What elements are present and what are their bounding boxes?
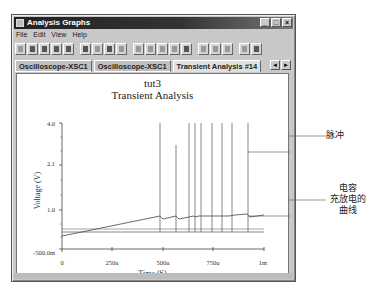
export-mathcad-icon[interactable] (251, 43, 262, 55)
annotation-capacitor-line1: 电容 (322, 183, 374, 194)
zoom-icon[interactable] (169, 43, 180, 55)
annotation-pulse: 脉冲 (326, 130, 344, 141)
analysis-graphs-window: Analysis Graphs _ □ × File Edit View Hel… (11, 14, 296, 282)
toolbar (15, 42, 292, 56)
select-trace-icon[interactable] (198, 43, 209, 55)
copy-icon[interactable] (92, 43, 103, 55)
tab-strip: Oscilloscope-XSC1 Oscilloscope-XSC1 Tran… (15, 60, 292, 72)
menu-help[interactable]: Help (72, 30, 86, 40)
undo-icon[interactable] (116, 43, 127, 55)
title-bar[interactable]: Analysis Graphs _ □ × (14, 17, 293, 29)
app-icon (16, 19, 24, 27)
cut-icon[interactable] (80, 43, 91, 55)
export-excel-icon[interactable] (239, 43, 250, 55)
menu-edit[interactable]: Edit (33, 30, 45, 40)
paste-icon[interactable] (104, 43, 115, 55)
tab-transient-analysis[interactable]: Transient Analysis #14 (173, 60, 262, 72)
menu-view[interactable]: View (51, 30, 66, 40)
legend-icon[interactable] (145, 43, 156, 55)
open-icon[interactable] (27, 43, 38, 55)
grid-icon[interactable] (133, 43, 144, 55)
close-button[interactable]: × (282, 18, 292, 27)
print-preview-icon[interactable] (63, 43, 74, 55)
annotation-capacitor-line3: 曲线 (322, 205, 374, 216)
menu-bar: File Edit View Help (16, 30, 87, 40)
menu-file[interactable]: File (16, 30, 27, 40)
properties-icon[interactable] (222, 43, 233, 55)
reverse-colors-icon[interactable] (181, 43, 192, 55)
cursors-icon[interactable] (157, 43, 168, 55)
minimize-button[interactable]: _ (260, 18, 270, 27)
print-icon[interactable] (51, 43, 62, 55)
tab-oscilloscope-xsc1-a[interactable]: Oscilloscope-XSC1 (15, 60, 92, 72)
tab-prev-button[interactable]: ◄ (270, 60, 280, 70)
status-bar (14, 273, 293, 279)
annotation-capacitor-line2: 充放电的 (322, 194, 374, 205)
waveform-plot (17, 74, 290, 276)
tab-next-button[interactable]: ► (281, 60, 291, 70)
window-title: Analysis Graphs (27, 17, 90, 29)
new-icon[interactable] (15, 43, 26, 55)
overlay-traces-icon[interactable] (210, 43, 221, 55)
tab-oscilloscope-xsc1-b[interactable]: Oscilloscope-XSC1 (94, 60, 171, 72)
maximize-button[interactable]: □ (271, 18, 281, 27)
save-icon[interactable] (39, 43, 50, 55)
graph-area[interactable]: tut3 Transient Analysis 4.0 2.1 1.0 -500… (16, 73, 289, 275)
annotation-capacitor: 电容 充放电的 曲线 (322, 183, 374, 216)
